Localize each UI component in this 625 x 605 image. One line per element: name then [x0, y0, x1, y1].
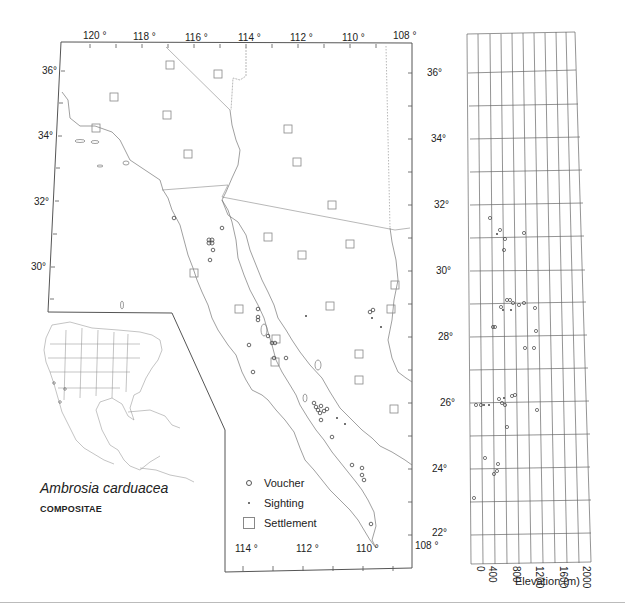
- lon-bottom-110: 110 °: [356, 543, 379, 554]
- lon-bottom-114: 114 °: [235, 543, 258, 554]
- lon-label-118: 118 °: [133, 31, 156, 42]
- legend-item-voucher: Voucher: [240, 473, 317, 493]
- voucher-circle-icon: [246, 480, 252, 486]
- lat-right-36: 36°: [427, 67, 442, 78]
- legend-label: Sighting: [264, 497, 304, 509]
- family-name: COMPOSITAE: [40, 504, 102, 514]
- legend-label: Voucher: [264, 477, 304, 489]
- species-name: Ambrosia carduacea: [40, 480, 168, 496]
- lon-label-114: 114 °: [238, 32, 261, 43]
- lon-label-110: 110 °: [342, 32, 365, 43]
- sighting-dot-icon: [248, 502, 250, 504]
- lon-label-108: 108 °: [393, 30, 416, 41]
- elev-tick-2000: 2000: [581, 566, 592, 588]
- elevation-sighting-points: [483, 233, 512, 406]
- legend-item-settlement: Settlement: [240, 513, 317, 533]
- lat-right-22: 22°: [432, 527, 447, 538]
- political-borders: [162, 46, 410, 230]
- lat-right-28: 28°: [438, 331, 453, 342]
- lat-left-30: 30°: [31, 261, 46, 272]
- lon-label-120: 120 °: [83, 30, 106, 41]
- lon-bottom-112: 112 °: [296, 543, 319, 554]
- top-ticks: [90, 44, 376, 48]
- lon-label-112: 112 °: [290, 32, 313, 43]
- settlement-markers: [92, 61, 399, 413]
- map-legend: Voucher Sighting Settlement: [240, 473, 317, 533]
- bottom-divider: [0, 602, 625, 603]
- elev-tick-0: 0: [475, 566, 486, 572]
- lon-label-116: 116 °: [185, 32, 208, 43]
- lat-right-32: 32°: [434, 199, 449, 210]
- legend-item-sighting: Sighting: [240, 493, 317, 513]
- lon-bottom-108: 108 °: [415, 540, 438, 551]
- lat-left-32: 32°: [34, 196, 49, 207]
- lat-right-34: 34°: [431, 133, 446, 144]
- lat-left-34: 34°: [38, 130, 53, 141]
- inset-north-america-map: [44, 322, 194, 482]
- elevation-axis-label: Elevation (m): [515, 575, 580, 587]
- lat-left-36: 36°: [42, 65, 57, 76]
- lat-right-30: 30°: [436, 265, 451, 276]
- elev-tick-400: 400: [487, 566, 498, 583]
- lat-right-24: 24°: [432, 463, 447, 474]
- legend-label: Settlement: [264, 517, 317, 529]
- elevation-chart: [467, 32, 591, 564]
- settlement-square-icon: [243, 517, 255, 529]
- lat-right-26: 26°: [440, 397, 455, 408]
